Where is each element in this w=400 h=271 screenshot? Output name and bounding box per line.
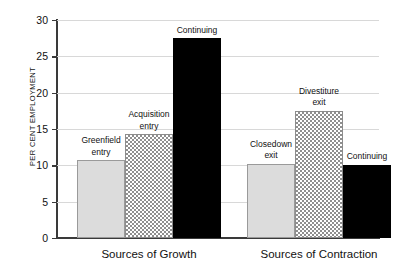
y-axis-tick: [52, 238, 57, 239]
y-axis-tick: [52, 56, 57, 57]
bar-value-label: Closedownexit: [250, 139, 292, 162]
bar-greenfield-entry: [77, 160, 125, 238]
plot-area: 051015202530GreenfieldentryAcquisitionen…: [57, 20, 379, 238]
y-axis-tick: [52, 129, 57, 130]
group-label-sources-of-growth: Sources of Growth: [101, 248, 196, 260]
y-axis-tick-label: 10: [36, 159, 48, 171]
bar-divestiture-exit: [295, 111, 343, 238]
y-axis-tick-label: 20: [36, 87, 48, 99]
y-axis-tick-label: 15: [36, 123, 48, 135]
bar-value-label: Greenfieldentry: [81, 135, 120, 158]
group-label-sources-of-contraction: Sources of Contraction: [261, 248, 378, 260]
bar-continuing: [343, 165, 391, 238]
y-axis-tick: [52, 20, 57, 21]
y-axis-tick-label: 30: [36, 14, 48, 26]
y-axis-tick-label: 25: [36, 50, 48, 62]
bar-closedown-exit: [247, 164, 295, 238]
y-axis-tick: [52, 93, 57, 94]
y-axis-tick-label: 5: [42, 196, 48, 208]
bar-value-label: Acquisitionentry: [128, 109, 169, 132]
bar-value-label: Divestitureexit: [299, 86, 339, 109]
y-axis-tick: [52, 165, 57, 166]
y-axis-tick-label: 0: [42, 232, 48, 244]
bar-acquisition-entry: [125, 134, 173, 238]
bar-continuing: [173, 38, 221, 238]
bar-value-label: Continuing: [347, 151, 388, 163]
bar-value-label: Continuing: [177, 25, 218, 37]
gridline: [57, 20, 379, 21]
y-axis-title: PER CENT EMPLOYMENT: [28, 27, 37, 207]
y-axis-tick: [52, 202, 57, 203]
bar-chart: PER CENT EMPLOYMENT 051015202530Greenfie…: [0, 0, 400, 271]
